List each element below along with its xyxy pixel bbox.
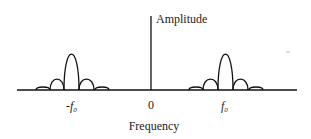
spectrum-lobe: [218, 54, 233, 90]
spectrum-lobe: [203, 79, 218, 90]
spectrum-lobe: [50, 79, 64, 90]
spectrum-lobe: [64, 54, 79, 90]
frequency-label: Frequency: [129, 119, 180, 133]
tick-label-neg-f0: -f0: [66, 99, 77, 114]
tick-label-zero: 0: [148, 98, 154, 112]
amplitude-label: Amplitude: [156, 12, 207, 26]
tick-label-f0: f0: [221, 99, 228, 114]
spectrum-lobe: [79, 79, 94, 90]
spectrum-lobe: [233, 79, 248, 90]
left-sinc-spectrum: [36, 54, 109, 90]
spectrum-diagram: Amplitude -f0 0 f0 Frequency: [0, 0, 311, 139]
right-sinc-spectrum: [189, 54, 263, 90]
